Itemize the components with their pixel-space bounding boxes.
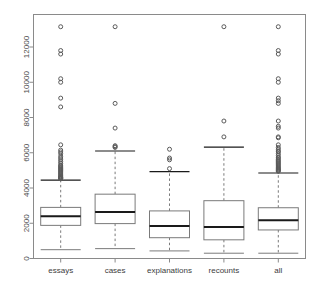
- y-axis-tick-label: 8000: [22, 108, 31, 126]
- box-group-recounts[interactable]: [204, 25, 244, 253]
- outlier-point: [222, 25, 226, 29]
- outlier-point: [113, 101, 117, 105]
- box-group-explanations[interactable]: [150, 147, 190, 251]
- x-axis-label-cases: cases: [105, 266, 126, 275]
- y-axis-tick-label: 6000: [22, 143, 31, 161]
- outlier-point: [222, 135, 226, 139]
- outlier-point: [59, 105, 63, 109]
- outlier-point: [276, 119, 280, 123]
- outlier-point: [168, 147, 172, 151]
- y-axis-tick-label: 10000: [22, 71, 31, 94]
- outlier-point: [168, 167, 172, 171]
- box-iqr: [95, 194, 135, 223]
- outlier-point: [59, 143, 63, 147]
- outlier-point: [59, 96, 63, 100]
- box-iqr: [204, 201, 244, 240]
- box-iqr: [258, 208, 298, 230]
- x-axis-label-essays: essays: [48, 266, 73, 275]
- outlier-point: [222, 119, 226, 123]
- y-axis-tick-label: 12000: [22, 35, 31, 58]
- outlier-point: [59, 25, 63, 29]
- outlier-point: [113, 126, 117, 130]
- y-axis-tick-label: 4000: [22, 179, 31, 197]
- box-group-cases[interactable]: [95, 25, 135, 249]
- x-axis-label-recounts: recounts: [209, 266, 240, 275]
- y-axis-tick-label: 0: [22, 256, 31, 261]
- outlier-point: [276, 101, 280, 105]
- box-iqr: [150, 211, 190, 238]
- x-axis-label-explanations: explanations: [147, 266, 192, 275]
- boxplot-figure: 020004000600080001000012000essayscasesex…: [0, 0, 318, 297]
- boxplot-canvas: 020004000600080001000012000essayscasesex…: [0, 0, 318, 297]
- outlier-point: [276, 25, 280, 29]
- outlier-point: [113, 25, 117, 29]
- x-axis-label-all: all: [274, 266, 282, 275]
- box-group-all[interactable]: [258, 25, 298, 253]
- box-group-essays[interactable]: [41, 25, 81, 250]
- y-axis-tick-label: 2000: [22, 214, 31, 232]
